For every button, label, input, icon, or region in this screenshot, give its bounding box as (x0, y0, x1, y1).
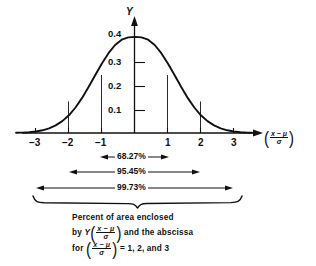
caption-by-word: by (72, 228, 82, 237)
paren-open-xaxis: ( (264, 128, 269, 147)
interval-label-95: 95.45% (115, 167, 148, 176)
caption-for-word: for (72, 244, 84, 253)
x-axis-label: (x − μσ) (264, 130, 294, 146)
caption-values: = 1, 2, and 3 (120, 244, 169, 253)
fraction-denominator-line3: σ (92, 249, 111, 256)
fraction-numerator-line2: x − μ (96, 225, 115, 233)
x-tick-label-2: 2 (198, 138, 204, 148)
x-tick-label-3: 3 (231, 138, 237, 148)
x-tick-label-1: 1 (165, 138, 171, 148)
interval-label-68: 68.27% (115, 152, 148, 161)
caption-brace (33, 196, 242, 208)
y-axis (131, 16, 138, 133)
fraction-x-minus-mu-over-sigma: x − μσ (270, 130, 288, 146)
x-tick-label-minus2: −2 (62, 138, 73, 148)
fraction-denominator: σ (270, 138, 288, 145)
caption-abscissa-words: and the abscissa (124, 228, 193, 237)
x-tick-label-minus1: −1 (95, 138, 106, 148)
y-axis-ticks (135, 63, 146, 111)
paren-close-xaxis: ) (289, 128, 294, 147)
y-tick-label-01: 0.1 (108, 105, 121, 115)
paren-close-line3: ) (112, 239, 117, 258)
interval-label-99: 99.73% (115, 183, 148, 192)
caption-line-1: Percent of area enclosed (72, 210, 252, 225)
x-tick-label-minus3: −3 (29, 138, 40, 148)
paren-open-line3: ( (86, 239, 91, 258)
normal-distribution-figure: Y 0.4 0.3 0.2 0.1 −3 −2 −1 1 2 3 (x − μσ… (0, 0, 316, 266)
y-tick-label-04: 0.4 (108, 29, 121, 39)
caption-line-2: by Y(x − μσ) and the abscissa (72, 225, 252, 241)
y-axis-label: Y (126, 7, 133, 17)
y-tick-label-03: 0.3 (108, 57, 121, 67)
caption: Percent of area enclosed by Y(x − μσ) an… (72, 210, 252, 256)
caption-line-3: for (x − μσ) = 1, 2, and 3 (72, 241, 252, 257)
y-tick-label-02: 0.2 (108, 81, 121, 91)
fraction-numerator: x − μ (270, 130, 288, 138)
